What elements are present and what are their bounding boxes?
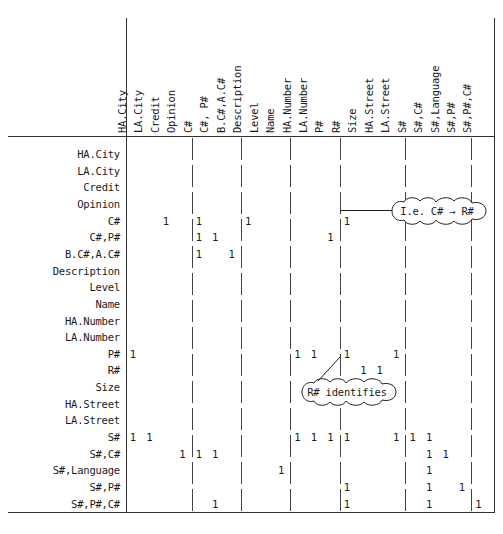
row-label-12: P# (0, 348, 128, 360)
column-header-15: HA.Street (362, 1, 376, 133)
column-header-9: Name (263, 1, 277, 133)
matrix-cell-r12-c16: 1 (391, 348, 401, 360)
row-label-14: Size (0, 381, 128, 393)
matrix-right-border-line (494, 18, 495, 512)
row-label-11: LA.Number (0, 331, 150, 343)
callout-rnum-identifies: R# identifies (288, 377, 406, 407)
column-header-4: C# (181, 1, 195, 133)
matrix-cell-r18-c4: 1 (194, 448, 204, 460)
column-header-6: B.C#,A.C# (214, 1, 228, 133)
matrix-cell-r6-c6: 1 (227, 248, 237, 260)
row-label-16: LA.Street (0, 414, 150, 426)
header-divider-rule (8, 136, 495, 137)
column-header-12: P# (312, 1, 326, 133)
matrix-cell-r12-c10: 1 (293, 348, 303, 360)
footer-divider-rule (8, 512, 495, 513)
row-label-9: Name (0, 298, 128, 310)
matrix-cell-r5-c12: 1 (325, 231, 335, 243)
column-header-1: LA.City (131, 1, 145, 133)
matrix-cell-r19-c9: 1 (276, 464, 286, 476)
matrix-cell-r4-c13: 1 (342, 215, 352, 227)
column-header-10: HA.Number (280, 1, 294, 133)
column-header-16: LA.Street (378, 1, 392, 133)
row-label-19: S#,Language (0, 464, 128, 476)
matrix-cell-r12-c0: 1 (128, 348, 138, 360)
column-header-13: R# (329, 1, 343, 133)
matrix-cell-r21-c5: 1 (210, 498, 220, 510)
matrix-cell-r17-c12: 1 (325, 431, 335, 443)
row-label-6: B.C#,A.C# (0, 248, 150, 260)
column-header-7: Description (230, 1, 244, 133)
matrix-cell-r19-c18: 1 (424, 464, 434, 476)
row-label-15: HA.Street (0, 398, 150, 410)
column-header-11: LA.Number (296, 1, 310, 133)
row-label-7: Description (0, 265, 128, 277)
matrix-cell-r5-c4: 1 (194, 231, 204, 243)
row-label-21: S#,P#,C# (0, 498, 128, 510)
matrix-cell-r20-c18: 1 (424, 481, 434, 493)
matrix-cell-r18-c3: 1 (177, 448, 187, 460)
row-label-1: LA.City (0, 165, 150, 177)
matrix-cell-r12-c13: 1 (342, 348, 352, 360)
matrix-cell-r17-c16: 1 (391, 431, 401, 443)
column-header-19: S#,Language (428, 1, 442, 133)
matrix-cell-r18-c18: 1 (424, 448, 434, 460)
row-label-2: Credit (0, 181, 128, 193)
matrix-cell-r13-c14: 1 (358, 364, 368, 376)
matrix-cell-r4-c2: 1 (161, 215, 171, 227)
dependency-matrix: HA.CityLA.CityCreditOpinionC#C#, P#B.C#,… (0, 0, 503, 534)
group-separator-4 (405, 138, 406, 511)
callout-ie-cnum-rnum: I.e. C# → R# (378, 196, 496, 226)
callout-rnum-leader-line (318, 357, 342, 383)
group-separator-3 (340, 138, 341, 511)
row-label-5: C#,P# (0, 231, 128, 243)
column-header-21: S#,P#,C# (460, 1, 474, 133)
row-label-18: S#,C# (0, 448, 128, 460)
column-header-18: S#,C# (411, 1, 425, 133)
row-label-4: C# (0, 215, 128, 227)
column-header-20: S#,P# (444, 1, 458, 133)
column-header-17: S# (395, 1, 409, 133)
matrix-cell-r21-c13: 1 (342, 498, 352, 510)
row-label-17: S# (0, 431, 128, 443)
matrix-cell-r13-c15: 1 (375, 364, 385, 376)
matrix-cell-r17-c10: 1 (293, 431, 303, 443)
matrix-cell-r18-c19: 1 (441, 448, 451, 460)
column-header-zone: HA.CityLA.CityCreditOpinionC#C#, P#B.C#,… (0, 0, 503, 136)
group-separator-5 (471, 138, 472, 511)
matrix-cell-r20-c20: 1 (457, 481, 467, 493)
matrix-cell-r17-c11: 1 (309, 431, 319, 443)
matrix-cell-r17-c18: 1 (424, 431, 434, 443)
row-label-8: Level (0, 281, 128, 293)
column-header-3: Opinion (164, 1, 178, 133)
row-label-3: Opinion (0, 198, 128, 210)
matrix-cell-r5-c5: 1 (210, 231, 220, 243)
matrix-cell-r6-c4: 1 (194, 248, 204, 260)
group-separator-2 (290, 138, 291, 511)
matrix-cell-r21-c21: 1 (473, 498, 483, 510)
column-header-2: Credit (148, 1, 162, 133)
row-label-13: R# (0, 364, 128, 376)
matrix-cell-r17-c0: 1 (128, 431, 138, 443)
matrix-cell-r4-c7: 1 (243, 215, 253, 227)
row-label-0: HA.City (0, 148, 150, 160)
column-header-8: Level (247, 1, 261, 133)
group-separator-1 (241, 138, 242, 511)
matrix-cell-r17-c13: 1 (342, 431, 352, 443)
row-label-20: S#,P# (0, 481, 128, 493)
callout-ie-leader-line (340, 210, 392, 211)
matrix-cell-r17-c17: 1 (408, 431, 418, 443)
column-header-14: Size (345, 1, 359, 133)
matrix-cell-r18-c5: 1 (210, 448, 220, 460)
matrix-cell-r21-c18: 1 (424, 498, 434, 510)
row-label-10: HA.Number (0, 315, 150, 327)
column-header-5: C#, P# (197, 1, 211, 133)
matrix-cell-r17-c1: 1 (144, 431, 154, 443)
matrix-cell-r20-c13: 1 (342, 481, 352, 493)
matrix-cell-r4-c4: 1 (194, 215, 204, 227)
